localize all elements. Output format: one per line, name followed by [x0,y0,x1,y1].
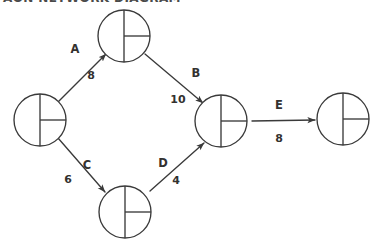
nodes-layer [14,10,369,238]
bottom-node[interactable] [99,186,151,238]
edge-e-group: E 8 [252,98,315,146]
edge-b-duration: 10 [170,93,186,106]
edges-layer: A 8 B 10 C 6 D 4 E 8 [58,42,315,193]
top-node[interactable] [98,10,150,62]
edge-d-duration: 4 [172,174,180,187]
edge-e-duration: 8 [275,132,283,145]
start-node[interactable] [14,94,66,146]
end-node[interactable] [317,93,369,145]
edge-b-label: B [192,66,201,80]
edge-a-group: A 8 [58,42,106,103]
merge-node[interactable] [195,95,247,147]
edge-a-label: A [71,42,80,56]
edge-e-line [252,120,315,121]
edge-a-duration: 8 [87,69,95,82]
edge-c-label: C [83,158,91,172]
edge-c-group: C 6 [58,138,105,192]
edge-e-label: E [275,98,283,112]
edge-b-group: B 10 [145,54,203,106]
network-diagram-svg: A 8 B 10 C 6 D 4 E 8 [0,0,384,251]
edge-d-group: D 4 [150,143,204,191]
edge-c-duration: 6 [64,173,72,186]
edge-a-line [58,54,106,102]
network-diagram-canvas: AON NETWORK DIAGRAM A 8 B 10 C 6 [0,0,384,251]
edge-d-label: D [158,156,168,170]
